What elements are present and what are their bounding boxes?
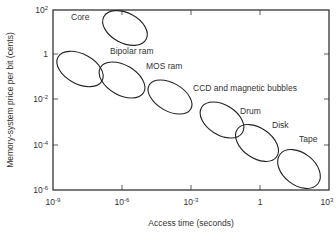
svg-text:10-6: 10-6 [33, 185, 48, 195]
mos-ram-region [93, 55, 151, 106]
x-tick-labels: 10-9 10-6 10-3 1 103 [46, 197, 334, 207]
tape-label: Tape [299, 134, 318, 144]
svg-text:10-2: 10-2 [33, 94, 48, 104]
svg-text:103: 103 [321, 197, 334, 207]
y-axis-label: Memory-system price per bit (cents) [5, 32, 15, 168]
bipolar-label: Bipolar ram [110, 46, 153, 56]
svg-text:102: 102 [35, 5, 48, 15]
region-labels: Core Bipolar ram MOS ram CCD and magneti… [71, 12, 318, 144]
disk-label: Disk [272, 120, 289, 130]
region-ellipses [51, 3, 328, 196]
bipolar-ram-region [51, 44, 109, 94]
ccd-label: CCD and magnetic bubbles [193, 83, 297, 93]
svg-text:1: 1 [43, 49, 48, 59]
drum-region [194, 95, 251, 146]
drum-label: Drum [240, 106, 261, 116]
mos-label: MOS ram [146, 61, 182, 71]
svg-text:10-9: 10-9 [46, 197, 61, 207]
svg-text:10-4: 10-4 [33, 140, 48, 150]
memory-price-chart: 102 1 10-2 10-4 10-6 10-9 10-6 10-3 1 10… [0, 0, 336, 243]
core-label: Core [71, 12, 90, 22]
y-tick-labels: 102 1 10-2 10-4 10-6 [33, 5, 48, 195]
svg-text:10-6: 10-6 [115, 197, 130, 207]
svg-text:10-3: 10-3 [184, 197, 199, 207]
ccd-region [142, 73, 198, 121]
x-axis-label: Access time (seconds) [148, 218, 234, 228]
svg-text:1: 1 [258, 197, 263, 207]
